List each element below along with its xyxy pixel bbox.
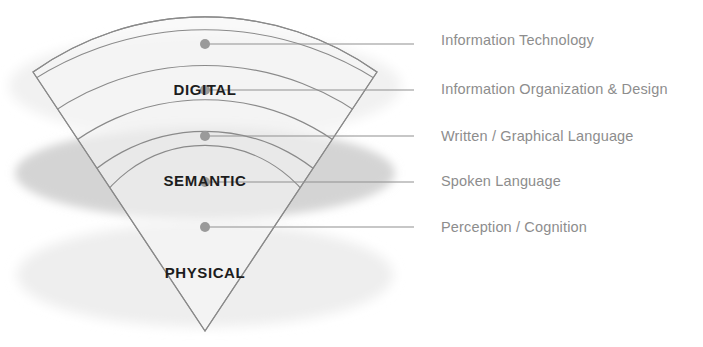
callout-dot-written-graphical-language (200, 131, 210, 141)
tier-label-physical: PHYSICAL (165, 264, 246, 281)
callout-label-information-organization-and-design: Information Organization & Design (441, 81, 668, 97)
callout-label-information-technology: Information Technology (441, 32, 595, 48)
callout-labels: Information Technology Information Organ… (441, 32, 668, 235)
callout-dot-perception-cognition (200, 222, 210, 232)
information-layers-diagram: DIGITAL SEMANTIC PHYSICAL Information Te… (0, 0, 703, 347)
diagram-canvas: DIGITAL SEMANTIC PHYSICAL Information Te… (0, 0, 703, 347)
callout-label-perception-cognition: Perception / Cognition (441, 219, 587, 235)
callout-dot-information-technology (200, 39, 210, 49)
callout-label-written-graphical-language: Written / Graphical Language (441, 128, 634, 144)
tier-label-semantic: SEMANTIC (163, 172, 246, 189)
tier-label-digital: DIGITAL (173, 81, 236, 98)
callout-label-spoken-language: Spoken Language (441, 173, 561, 189)
